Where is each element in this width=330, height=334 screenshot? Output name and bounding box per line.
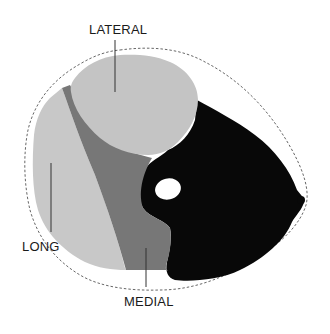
- label-lateral-head: LATERAL: [89, 22, 147, 37]
- label-medial-head: MEDIAL: [124, 294, 174, 309]
- triceps-cross-section-diagram: [0, 0, 330, 334]
- label-long-head: LONG: [22, 239, 60, 254]
- edge-nub: [297, 196, 305, 204]
